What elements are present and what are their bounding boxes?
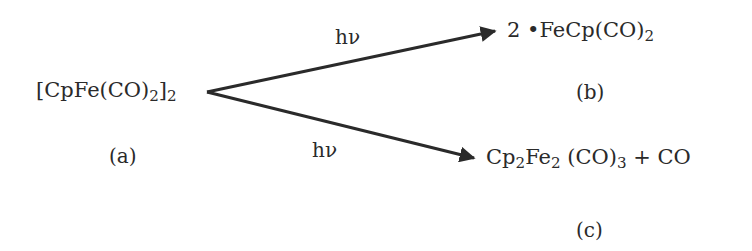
product-c-formula: Cp2Fe2 (CO)3 + CO bbox=[486, 147, 691, 168]
product-c-label: (c) bbox=[576, 220, 603, 240]
radical-dot-icon: • bbox=[527, 18, 539, 42]
lower-arrow-condition: hν bbox=[312, 140, 337, 160]
upper-arrow-condition: hν bbox=[335, 27, 360, 47]
reactant-label: (a) bbox=[109, 146, 137, 166]
reactant-formula: [CpFe(CO)2]2 bbox=[36, 80, 177, 101]
arrow-to-product-c bbox=[207, 92, 474, 158]
product-b-formula: 2 •FeCp(CO)2 bbox=[507, 20, 654, 41]
product-b-label: (b) bbox=[576, 82, 604, 102]
